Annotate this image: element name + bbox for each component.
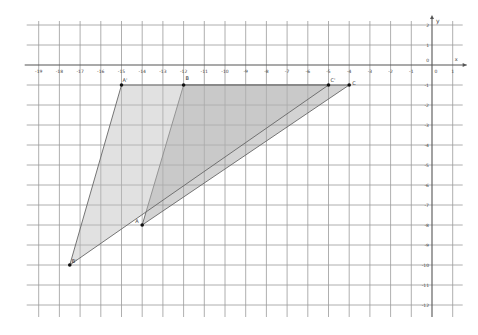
x-tick-label: -16 xyxy=(97,69,104,74)
x-tick-label: -19 xyxy=(35,69,42,74)
x-tick-label: -3 xyxy=(368,69,373,74)
x-tick-label: -15 xyxy=(118,69,125,74)
y-tick-label: -9 xyxy=(425,243,430,248)
origin-label: 0 xyxy=(426,58,429,63)
geometry-board[interactable]: -19-18-17-16-15-14-13-12-11-10-9-8-7-6-5… xyxy=(0,0,478,335)
x-tick-label: 1 xyxy=(451,69,454,74)
point-marker-icon[interactable] xyxy=(347,83,351,87)
point-marker-icon[interactable] xyxy=(182,83,186,87)
x-tick-label: -14 xyxy=(139,69,146,74)
x-tick-label: -12 xyxy=(180,69,187,74)
y-tick-label: -2 xyxy=(425,103,430,108)
y-tick-label: -10 xyxy=(422,263,429,268)
point-C[interactable]: C xyxy=(347,80,356,87)
tick-labels: -19-18-17-16-15-14-13-12-11-10-9-8-7-6-5… xyxy=(35,17,458,308)
x-tick-label: -10 xyxy=(221,69,228,74)
point-label: A xyxy=(135,218,139,224)
point-label: C xyxy=(352,80,356,86)
x-tick-label: -11 xyxy=(201,69,208,74)
y-tick-label: -12 xyxy=(422,303,429,308)
y-tick-label: -3 xyxy=(425,123,430,128)
x-tick-label: -4 xyxy=(347,69,352,74)
y-tick-label: 1 xyxy=(426,43,429,48)
x-tick-label: -13 xyxy=(159,69,166,74)
x-tick-label: -8 xyxy=(264,69,269,74)
point-label: B' xyxy=(72,258,77,264)
point-marker-icon[interactable] xyxy=(120,83,124,87)
point-label: C' xyxy=(331,77,336,83)
point-label: B xyxy=(186,75,190,81)
triangles[interactable] xyxy=(70,85,349,265)
y-tick-label: 2 xyxy=(426,23,429,28)
x-tick-label: -17 xyxy=(76,69,83,74)
triangle-A'B'C'[interactable] xyxy=(70,85,329,265)
x-tick-label: -9 xyxy=(243,69,248,74)
coordinate-plane[interactable]: -19-18-17-16-15-14-13-12-11-10-9-8-7-6-5… xyxy=(0,0,478,335)
y-axis-arrow-icon xyxy=(430,15,434,19)
x-tick-label: -6 xyxy=(306,69,311,74)
y-tick-label: -11 xyxy=(422,283,429,288)
point-B-prime[interactable]: B' xyxy=(68,258,77,267)
origin-label: 0 xyxy=(435,69,438,74)
x-tick-label: -18 xyxy=(56,69,63,74)
y-tick-label: -5 xyxy=(425,163,430,168)
point-label: A' xyxy=(123,77,128,83)
x-tick-label: -1 xyxy=(409,69,414,74)
y-tick-label: -4 xyxy=(425,143,430,148)
x-axis-arrow-icon xyxy=(463,63,467,67)
y-tick-label: -7 xyxy=(425,203,430,208)
y-tick-label: -1 xyxy=(425,83,430,88)
y-tick-label: -6 xyxy=(425,183,430,188)
x-axis-label: x xyxy=(455,56,458,62)
point-marker-icon[interactable] xyxy=(327,83,331,87)
x-tick-label: -2 xyxy=(388,69,393,74)
x-tick-label: -7 xyxy=(285,69,290,74)
point-marker-icon[interactable] xyxy=(140,223,144,227)
y-axis-label: y xyxy=(436,17,440,25)
y-tick-label: -8 xyxy=(425,223,430,228)
x-tick-label: -5 xyxy=(326,69,331,74)
